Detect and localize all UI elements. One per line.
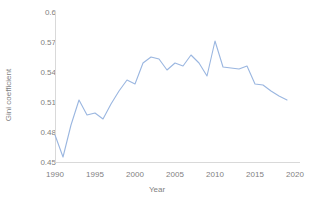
plot-area bbox=[0, 0, 314, 204]
data-series-gini-coefficient bbox=[55, 41, 287, 157]
gini-coefficient-line-chart: Gini coefficient Year 0.6 0.57 0.54 0.51… bbox=[0, 0, 314, 204]
